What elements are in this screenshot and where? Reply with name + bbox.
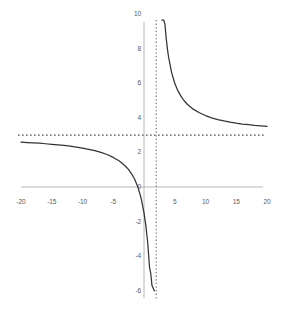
y-tick-label-0: 0 — [137, 184, 141, 191]
x-tick-label-15: 15 — [233, 199, 240, 206]
y-tick-label-10: 10 — [134, 11, 141, 18]
y-tick-label-2: 2 — [137, 149, 141, 156]
x-tick-label-neg5: -5 — [110, 199, 116, 206]
x-tick-label-5: 5 — [173, 199, 177, 206]
axis-lines — [21, 22, 263, 298]
x-tick-label-neg20: -20 — [16, 199, 25, 206]
y-tick-label-neg2: -2 — [135, 218, 141, 225]
y-tick-label-6: 6 — [137, 80, 141, 87]
curve-right-branch — [162, 20, 267, 126]
x-tick-label-20: 20 — [263, 199, 270, 206]
y-tick-label-neg6: -6 — [135, 288, 141, 295]
x-tick-label-neg15: -15 — [47, 199, 56, 206]
asymptote-lines — [18, 20, 266, 300]
curve-left-branch — [21, 142, 154, 291]
y-tick-label-neg4: -4 — [135, 253, 141, 260]
x-tick-label-neg10: -10 — [78, 199, 87, 206]
chart-canvas: 1086420-2-4-6 -20-15-10-55101520 — [0, 0, 284, 313]
plot-area — [0, 0, 284, 313]
y-tick-label-8: 8 — [137, 45, 141, 52]
y-tick-label-4: 4 — [137, 115, 141, 122]
x-tick-label-10: 10 — [202, 199, 209, 206]
